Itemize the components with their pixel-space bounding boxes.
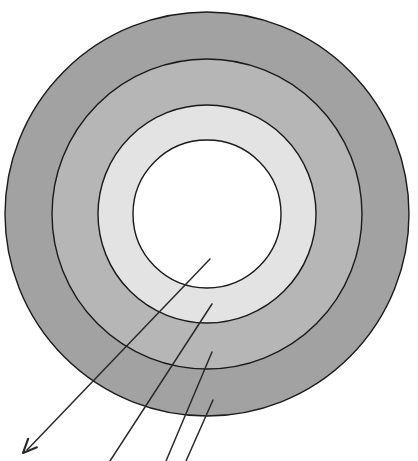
core (133, 140, 281, 288)
concentric-ring-diagram (0, 0, 418, 461)
diagram-root (0, 0, 418, 461)
ring-stack (5, 12, 409, 416)
